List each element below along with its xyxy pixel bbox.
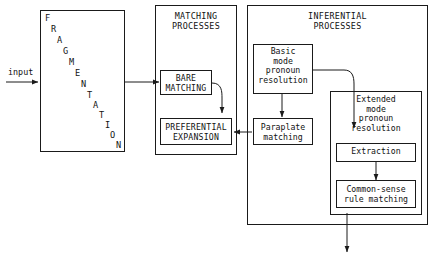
fragmentation-letter: A [57,36,62,45]
fragmentation-letter: T [99,111,104,120]
fragmentation-letter: O [110,131,115,140]
extended-mode-pronoun-resolution-label: Extended mode pronoun resolution [334,95,418,134]
fragmentation-letter: G [63,47,68,56]
fragmentation-letter: M [69,58,74,67]
bare-matching-label: BARE MATCHING [160,74,212,93]
fragmentation-letter: A [93,101,98,110]
inferential-processes-title: INFERENTIAL PROCESSES [247,12,428,32]
fragmentation-letter: T [87,91,92,100]
paraplate-matching-label: Paraplate matching [253,123,313,142]
fragmentation-letter: R [51,25,56,34]
common-sense-rule-matching-label: Common-sense rule matching [336,185,416,204]
fragmentation-letter: F [45,14,50,23]
fragmentation-letter: E [75,69,80,78]
basic-mode-pronoun-resolution-label: Basic mode pronoun resolution [253,47,313,86]
fragmentation-letter: I [105,121,110,130]
matching-processes-title: MATCHING PROCESSES [155,12,237,32]
preferential-expansion-label: PREFERENTIAL EXPANSION [160,123,232,142]
fragmentation-letter: N [116,141,121,150]
fragmentation-letter: N [81,80,86,89]
extraction-label: Extraction [336,147,416,157]
diagram-canvas: input F R A G M E N T A T I O N MATCHING… [0,0,431,261]
